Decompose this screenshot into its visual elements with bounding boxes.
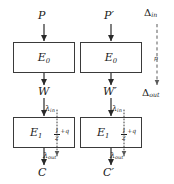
left-lambda-in-label: λin [45,105,55,113]
right-lambda-out-subscript: out [115,154,123,160]
right-stage1-box: E0 [80,42,142,73]
left-lambda-out-subscript: out [48,154,56,160]
right-bias-tail: +q [127,128,136,134]
left-lambda-out-label: λout [43,152,56,160]
delta-out-label: Δout [142,88,159,99]
right-stage1-label: E0 [81,51,141,65]
right-stage2-subscript: 1 [105,131,109,139]
left-output-label: C [38,167,46,178]
left-stage2-subscript: 1 [38,131,42,139]
right-input-label: P′ [104,10,114,21]
delta-in-label: Δin [144,8,157,19]
left-stage1-subscript: 0 [46,56,50,64]
delta-in-subscript: in [151,11,157,18]
right-bias-denominator: 2 [121,135,127,141]
diagram-canvas: P E0 W λin E1 1 2 +q λout C P′ E0 [0,0,174,184]
left-bias-denominator: 2 [54,135,60,141]
left-stage1-label: E0 [14,51,74,65]
right-output-label: C′ [103,167,114,178]
right-stage1-subscript: 0 [113,56,117,64]
left-bias-label: 1 2 +q [54,128,69,141]
delta-edge-label: p [154,54,158,61]
right-mid-label: W′ [103,86,117,97]
left-stage1-box: E0 [13,42,75,73]
right-bias-label: 1 2 +q [121,128,136,141]
left-bias-tail: +q [60,128,69,134]
right-lambda-out-label: λout [110,152,123,160]
left-input-label: P [38,10,45,21]
right-lambda-in-subscript: in [117,107,122,113]
left-mid-label: W [38,86,49,97]
right-lambda-in-label: λin [112,105,122,113]
left-lambda-in-subscript: in [50,107,55,113]
delta-out-subscript: out [149,91,159,98]
